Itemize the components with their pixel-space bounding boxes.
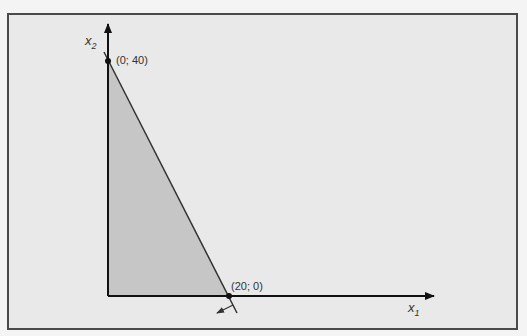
point-label-20-0: (20; 0)	[231, 280, 263, 292]
point-0-40	[105, 58, 111, 64]
point-label-0-40: (0; 40)	[116, 54, 148, 66]
x1-axis-label: x1	[407, 300, 420, 318]
point-20-0	[226, 293, 232, 299]
x2-axis-label: x2	[84, 33, 97, 51]
lp-diagram: (0; 40) (20; 0) x2 x1	[0, 0, 527, 336]
direction-arrow-icon	[217, 305, 233, 313]
